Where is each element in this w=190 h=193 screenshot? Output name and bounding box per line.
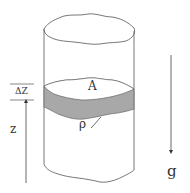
- cylinder-top-edge: [44, 14, 135, 44]
- cylinder-bottom-edge: [44, 164, 134, 182]
- area-label: A: [88, 80, 97, 92]
- density-leader-line: [91, 117, 101, 128]
- gravity-label: g: [167, 164, 177, 179]
- fluid-column-diagram: [0, 0, 190, 193]
- height-label: z: [10, 123, 16, 135]
- density-label: ρ: [79, 118, 86, 130]
- delta-z-label: ΔZ: [15, 87, 28, 96]
